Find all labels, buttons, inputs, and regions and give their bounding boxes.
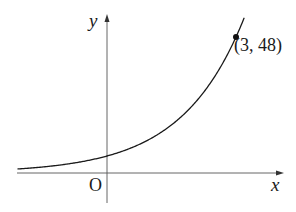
exponential-graph-figure: y x O (3, 48): [0, 0, 296, 212]
y-axis-label: y: [89, 11, 97, 30]
y-axis-arrow-icon: [105, 14, 110, 22]
graph-canvas: [0, 0, 296, 212]
point-label: (3, 48): [234, 36, 282, 54]
origin-label: O: [89, 176, 102, 194]
x-axis-label: x: [271, 175, 279, 194]
y-axis: [105, 14, 110, 203]
x-axis: [17, 171, 284, 176]
exponential-curve: [18, 18, 244, 169]
